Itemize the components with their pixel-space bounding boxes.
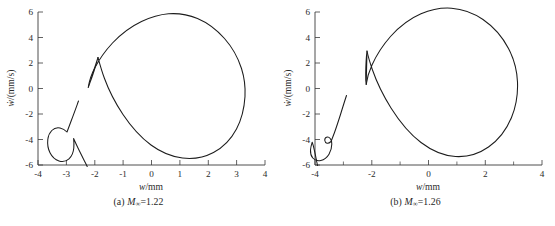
y-axis-title-b: ẇ/(mm/s): [282, 70, 294, 107]
x-ticklabel-a-7: 3: [234, 169, 239, 179]
x-ticklabel-a-0: -4: [34, 169, 42, 179]
y-ticklabel-a-2: -2: [25, 109, 33, 119]
x-ticklabel-b-1: -2: [368, 169, 376, 179]
x-ticklabel-a-3: -1: [119, 169, 127, 179]
y-ticklabel-a-6: 6: [28, 7, 33, 17]
y-ticklabel-b-1: -4: [302, 135, 310, 145]
caption-a: (a) M∞=1.22: [0, 196, 277, 208]
x-ticks-a: [38, 160, 265, 165]
x-ticklabel-b-4: 4: [540, 169, 545, 179]
y-ticklabel-b-5: 4: [305, 33, 310, 43]
x-ticklabel-a-4: 0: [149, 169, 154, 179]
y-ticklabel-b-6: 6: [305, 7, 310, 17]
x-axis-title-b: w/mm: [416, 181, 441, 192]
caption-b-value: =1.26: [418, 196, 441, 207]
y-axis-title-a: ẇ/(mm/s): [5, 70, 17, 107]
y-ticklabel-b-0: -6: [302, 160, 310, 170]
plot-a: 6 4 2 0 -2 -4 -6 -4 -3 -2 -1 0 1 2 3 4 w…: [0, 0, 277, 226]
y-ticklabel-b-3: 0: [305, 84, 310, 94]
x-ticklabel-a-8: 4: [263, 169, 268, 179]
y-ticklabel-a-1: -4: [25, 135, 33, 145]
figure-container: 6 4 2 0 -2 -4 -6 -4 -3 -2 -1 0 1 2 3 4 w…: [0, 0, 555, 226]
x-ticks-b: [315, 160, 542, 165]
y-ticks-b: [315, 12, 320, 165]
caption-b: (b) M∞=1.26: [277, 196, 554, 208]
transient-spiral-a: [48, 101, 88, 167]
limit-cycle-orbit-b: [366, 8, 517, 157]
y-ticklabel-a-5: 4: [28, 33, 33, 43]
transient-spiral-b: [310, 96, 346, 166]
limit-cycle-cusp-b: [366, 51, 367, 85]
caption-a-value: =1.22: [140, 196, 163, 207]
x-ticklabel-a-1: -3: [63, 169, 71, 179]
y-ticklabel-b-2: -2: [302, 109, 310, 119]
caption-b-symbol: M: [404, 196, 412, 207]
x-axis-title-a: w/mm: [139, 181, 164, 192]
y-ticklabel-a-3: 0: [28, 84, 33, 94]
y-ticklabel-a-4: 2: [28, 58, 33, 68]
x-ticklabel-b-0: -4: [311, 169, 319, 179]
x-ticklabel-a-2: -2: [91, 169, 99, 179]
x-ticklabel-a-6: 2: [206, 169, 211, 179]
caption-a-prefix: (a): [113, 196, 124, 207]
caption-b-prefix: (b): [390, 196, 402, 207]
limit-cycle-orbit-a: [88, 14, 245, 159]
panel-a: 6 4 2 0 -2 -4 -6 -4 -3 -2 -1 0 1 2 3 4 w…: [0, 0, 277, 226]
plot-b: 6 4 2 0 -2 -4 -6 -4 -2 0 2 4 w/mm ẇ/(mm/…: [277, 0, 554, 226]
x-ticklabel-b-3: 2: [483, 169, 488, 179]
y-ticklabel-b-4: 2: [305, 58, 310, 68]
y-ticks-a: [38, 12, 43, 165]
x-ticklabel-a-5: 1: [178, 169, 183, 179]
limit-cycle-cusp-a: [88, 58, 98, 88]
y-ticklabel-a-0: -6: [25, 160, 33, 170]
x-ticklabel-b-2: 0: [426, 169, 431, 179]
panel-b: 6 4 2 0 -2 -4 -6 -4 -2 0 2 4 w/mm ẇ/(mm/…: [277, 0, 554, 226]
